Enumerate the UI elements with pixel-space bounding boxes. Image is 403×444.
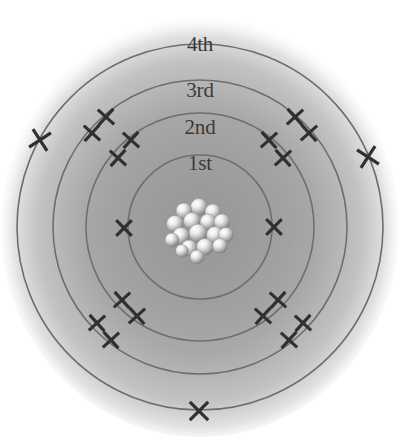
- atom-diagram-canvas: 1st2nd3rd4th: [0, 0, 403, 444]
- shell-label-4: 4th: [187, 34, 213, 55]
- atom-vector-layer: [0, 0, 403, 444]
- nucleon-15: [213, 239, 228, 254]
- nucleon-16: [190, 250, 204, 264]
- shell-label-1: 1st: [188, 153, 212, 174]
- nucleon-12: [165, 233, 179, 247]
- shell-label-2: 2nd: [185, 117, 216, 138]
- shell-label-3: 3rd: [186, 80, 213, 101]
- nucleon-17: [176, 245, 189, 258]
